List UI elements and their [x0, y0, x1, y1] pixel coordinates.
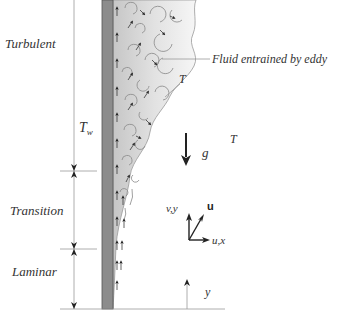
region-label-turbulent: Turbulent — [5, 36, 56, 51]
heated-wall — [102, 0, 113, 309]
height-coordinate-label: y — [204, 285, 211, 299]
axis-label-vertical: v,y — [166, 202, 178, 214]
velocity-vector-label: u — [207, 200, 214, 212]
eddy-annotation: Fluid entrained by eddy — [211, 52, 328, 66]
axis-label-horizontal: u,x — [212, 234, 225, 246]
region-label-transition: Transition — [10, 203, 63, 218]
wall-temperature-label: Tw — [79, 120, 93, 137]
ambient-temperature-label: T — [230, 132, 238, 146]
coordinate-axes — [189, 218, 205, 240]
region-label-laminar: Laminar — [11, 264, 58, 279]
gravity-label: g — [202, 145, 209, 160]
height-arrowhead — [184, 279, 190, 286]
convection-diagram: Turbulent Transition Laminar Tw Fluid en… — [0, 0, 342, 322]
